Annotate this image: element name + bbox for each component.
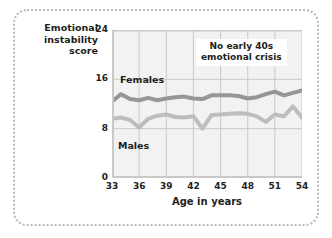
- series-line-males: [112, 106, 302, 128]
- series-label-males: Males: [118, 140, 149, 151]
- series-line-females: [112, 90, 302, 101]
- x-axis-tick-labels: 3336394245485154: [112, 181, 302, 195]
- y-tick-label: 24: [86, 24, 108, 34]
- y-tick-label: 16: [86, 73, 108, 83]
- y-tick-label: 8: [86, 123, 108, 133]
- annotation-line-1: No early 40s: [201, 41, 282, 52]
- annotation-line-2: emotional crisis: [201, 52, 282, 63]
- y-tick-label: 0: [86, 172, 108, 182]
- x-tick-label: 39: [160, 181, 173, 191]
- figure: Emotional instability score 241680 Femal…: [0, 0, 332, 238]
- annotation-no-early-40s-crisis: No early 40s emotional crisis: [196, 39, 287, 66]
- series-label-females: Females: [120, 74, 164, 85]
- x-tick-label: 45: [214, 181, 227, 191]
- x-tick-label: 51: [269, 181, 282, 191]
- y-axis-tick-labels: 241680: [82, 30, 108, 178]
- x-tick-label: 42: [187, 181, 200, 191]
- x-axis-title: Age in years: [112, 196, 302, 207]
- x-tick-label: 48: [241, 181, 254, 191]
- x-tick-label: 54: [296, 181, 309, 191]
- x-tick-label: 36: [133, 181, 146, 191]
- x-tick-label: 33: [106, 181, 119, 191]
